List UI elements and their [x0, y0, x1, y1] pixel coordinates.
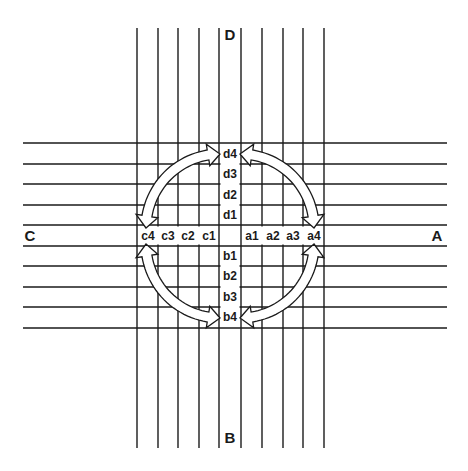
direction-label-top: D	[225, 26, 236, 43]
cell-label-c2: c2	[181, 229, 195, 243]
cell-label-d2: d2	[223, 188, 237, 202]
intersection-diagram: D B C A d4 d3 d2 d1 b1 b2 b3 b4 c4 c3 c2…	[0, 0, 468, 471]
cell-label-a3: a3	[286, 229, 300, 243]
direction-label-bottom: B	[225, 429, 236, 446]
cell-label-b4: b4	[223, 310, 237, 324]
cell-label-d3: d3	[223, 167, 237, 181]
cell-label-d4: d4	[223, 147, 237, 161]
cell-label-c4: c4	[141, 229, 155, 243]
cell-label-c3: c3	[161, 229, 175, 243]
arrow-a4-b4-icon	[240, 244, 324, 328]
cell-label-b2: b2	[223, 269, 237, 283]
cell-label-b1: b1	[223, 249, 237, 263]
cell-label-a4: a4	[307, 229, 321, 243]
arrow-d4-a4-icon	[240, 144, 324, 228]
cell-label-b3: b3	[223, 290, 237, 304]
cell-label-a2: a2	[266, 229, 280, 243]
direction-label-right: A	[432, 227, 443, 244]
cell-label-a1: a1	[245, 229, 259, 243]
cell-label-c1: c1	[202, 229, 216, 243]
label-background	[221, 227, 240, 245]
cell-label-d1: d1	[223, 208, 237, 222]
direction-label-left: C	[25, 227, 36, 244]
